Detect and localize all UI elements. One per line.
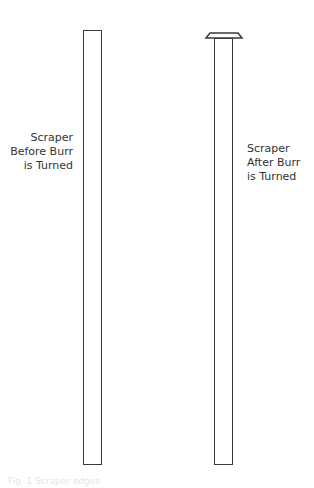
label-line: Scraper [247,142,300,156]
figure-caption: Fig. 1 Scraper edges [8,476,100,486]
scraper-after-bar [214,38,233,465]
label-line: Scraper [10,131,73,145]
label-line: After Burr [247,156,300,170]
label-line: Before Burr [10,145,73,159]
scraper-before-bar [83,30,102,465]
label-line: is Turned [10,159,73,173]
label-line: is Turned [247,170,300,184]
scraper-before-label: Scraper Before Burr is Turned [10,131,73,173]
scraper-after-label: Scraper After Burr is Turned [247,142,300,184]
